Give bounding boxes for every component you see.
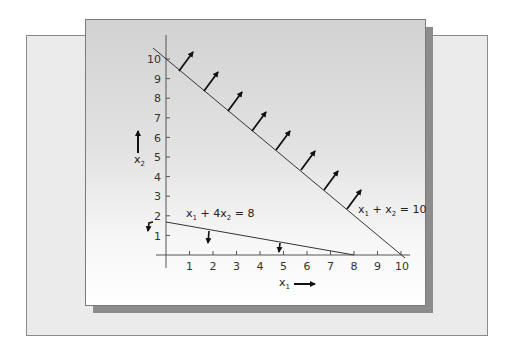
svg-text:1: 1 (186, 260, 193, 273)
svg-text:9: 9 (374, 260, 381, 273)
x-tick-labels: 1 2 3 4 5 6 7 8 9 10 (186, 260, 409, 273)
svg-text:4: 4 (154, 171, 161, 184)
svg-text:6: 6 (154, 132, 161, 145)
svg-text:5: 5 (280, 260, 287, 273)
svg-text:2: 2 (210, 260, 217, 273)
svg-text:8: 8 (154, 92, 161, 105)
svg-text:3: 3 (233, 260, 240, 273)
feasible-direction-arrows (148, 222, 280, 252)
axes (156, 35, 410, 268)
feasible-direction-arrows (179, 52, 361, 209)
constraint-line-x1-plus-4x2-eq-8 (148, 222, 354, 255)
svg-text:10: 10 (395, 260, 409, 273)
svg-text:2: 2 (154, 210, 161, 223)
y-tick-labels: 1 2 3 4 5 6 7 8 9 10 (147, 53, 161, 243)
svg-text:3: 3 (154, 190, 161, 203)
svg-text:5: 5 (154, 151, 161, 164)
svg-text:x1: x1 (279, 276, 290, 291)
svg-text:1: 1 (154, 230, 161, 243)
svg-text:7: 7 (154, 112, 161, 125)
constraint-plot: 1 2 3 4 5 6 7 8 9 10 1 2 3 4 5 6 7 8 9 1… (0, 0, 511, 357)
label-x1-plus-x2-eq-10: x1 + x2 = 10 (358, 203, 426, 218)
label-x1-plus-4x2-eq-8: x1 + 4x2 = 8 (186, 207, 254, 222)
svg-text:6: 6 (304, 260, 311, 273)
svg-text:8: 8 (351, 260, 358, 273)
svg-text:x2: x2 (134, 153, 145, 168)
svg-text:7: 7 (327, 260, 334, 273)
x-axis-label: x1 (279, 276, 315, 291)
svg-text:10: 10 (147, 53, 161, 66)
y-axis-label: x2 (134, 131, 145, 168)
svg-text:9: 9 (154, 73, 161, 86)
svg-text:4: 4 (257, 260, 264, 273)
